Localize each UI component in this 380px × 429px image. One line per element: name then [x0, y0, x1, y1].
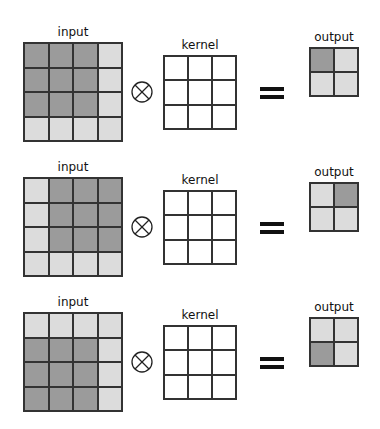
kernel-cell-0-0 [164, 191, 188, 215]
output-cell-1-0 [310, 207, 334, 231]
kernel-grid [163, 325, 237, 400]
kernel-cell-1-2 [212, 215, 236, 239]
kernel-cell-1-0 [164, 80, 188, 104]
input-cell-3-3 [98, 252, 123, 277]
kernel-cell-0-1 [188, 56, 212, 80]
kernel-cell-0-2 [212, 56, 236, 80]
kernel-cell-0-0 [164, 326, 188, 350]
output-cell-0-1 [334, 48, 358, 72]
input-cell-2-2 [73, 227, 98, 252]
input-grid [23, 312, 123, 412]
kernel-cell-1-1 [188, 80, 212, 104]
input-cell-1-0 [24, 203, 49, 228]
input-grid [23, 177, 123, 277]
input-cell-1-3 [98, 338, 123, 363]
input-cell-2-3 [98, 227, 123, 252]
convolution-step-2: input kernel output [0, 160, 380, 300]
input-label: input [23, 25, 123, 39]
output-cell-0-0 [310, 183, 334, 207]
kernel-cell-0-0 [164, 56, 188, 80]
input-cell-1-1 [49, 68, 74, 93]
input-cell-2-2 [73, 92, 98, 117]
input-cell-0-2 [73, 43, 98, 68]
output-grid [309, 182, 359, 232]
input-cell-2-3 [98, 92, 123, 117]
output-cell-1-1 [334, 342, 358, 366]
input-cell-0-3 [98, 43, 123, 68]
input-cell-0-2 [73, 178, 98, 203]
kernel-cell-2-2 [212, 240, 236, 264]
input-cell-0-1 [49, 43, 74, 68]
kernel-cell-2-1 [188, 240, 212, 264]
kernel-cell-0-2 [212, 326, 236, 350]
input-cell-3-3 [98, 387, 123, 412]
input-cell-0-0 [24, 178, 49, 203]
output-grid [309, 317, 359, 367]
input-cell-1-2 [73, 203, 98, 228]
output-cell-1-1 [334, 72, 358, 96]
input-cell-1-2 [73, 68, 98, 93]
output-cell-0-0 [310, 48, 334, 72]
kernel-cell-1-2 [212, 80, 236, 104]
kernel-cell-2-0 [164, 105, 188, 129]
equals-icon [260, 356, 284, 370]
input-cell-2-0 [24, 227, 49, 252]
input-cell-1-0 [24, 338, 49, 363]
kernel-cell-1-0 [164, 350, 188, 374]
input-cell-3-0 [24, 252, 49, 277]
convolution-step-3: input kernel output [0, 295, 380, 429]
input-label: input [23, 295, 123, 309]
input-cell-1-3 [98, 68, 123, 93]
input-grid [23, 42, 123, 142]
convolution-operator-icon [131, 216, 153, 238]
input-cell-1-3 [98, 203, 123, 228]
kernel-cell-0-1 [188, 191, 212, 215]
input-cell-2-0 [24, 362, 49, 387]
input-cell-2-1 [49, 362, 74, 387]
output-cell-1-0 [310, 72, 334, 96]
input-cell-2-1 [49, 92, 74, 117]
kernel-cell-1-1 [188, 350, 212, 374]
input-cell-2-2 [73, 362, 98, 387]
input-cell-1-1 [49, 338, 74, 363]
input-cell-3-2 [73, 117, 98, 142]
output-label: output [309, 300, 359, 314]
output-cell-1-0 [310, 342, 334, 366]
convolution-step-1: input kernel output [0, 25, 380, 165]
input-cell-0-3 [98, 178, 123, 203]
kernel-cell-2-2 [212, 105, 236, 129]
kernel-cell-2-0 [164, 375, 188, 399]
input-cell-1-1 [49, 203, 74, 228]
input-cell-3-2 [73, 387, 98, 412]
input-cell-1-2 [73, 338, 98, 363]
convolution-operator-icon [131, 81, 153, 103]
input-cell-0-0 [24, 313, 49, 338]
input-cell-3-1 [49, 387, 74, 412]
input-cell-3-0 [24, 387, 49, 412]
input-cell-3-3 [98, 117, 123, 142]
kernel-label: kernel [163, 308, 237, 322]
input-cell-2-1 [49, 227, 74, 252]
output-grid [309, 47, 359, 97]
input-cell-3-1 [49, 117, 74, 142]
kernel-label: kernel [163, 38, 237, 52]
input-cell-3-1 [49, 252, 74, 277]
input-cell-0-1 [49, 313, 74, 338]
output-cell-1-1 [334, 207, 358, 231]
kernel-cell-2-0 [164, 240, 188, 264]
output-cell-0-1 [334, 318, 358, 342]
output-cell-0-0 [310, 318, 334, 342]
kernel-cell-2-1 [188, 375, 212, 399]
kernel-cell-2-2 [212, 375, 236, 399]
convolution-operator-icon [131, 351, 153, 373]
input-cell-0-0 [24, 43, 49, 68]
kernel-grid [163, 55, 237, 130]
input-cell-3-2 [73, 252, 98, 277]
kernel-label: kernel [163, 173, 237, 187]
input-cell-3-0 [24, 117, 49, 142]
output-label: output [309, 30, 359, 44]
kernel-cell-0-2 [212, 191, 236, 215]
input-cell-0-1 [49, 178, 74, 203]
kernel-cell-1-0 [164, 215, 188, 239]
input-cell-0-3 [98, 313, 123, 338]
